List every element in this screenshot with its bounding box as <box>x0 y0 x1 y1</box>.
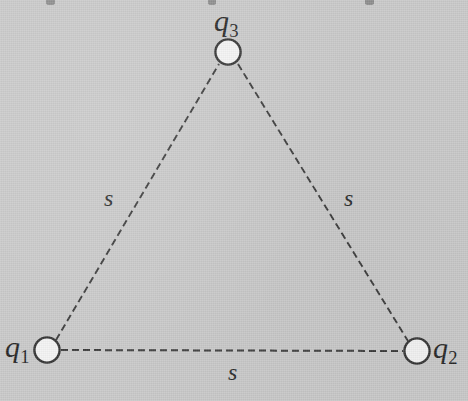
charge-node-q3 <box>215 39 240 64</box>
edge-q1-q2 <box>61 350 403 351</box>
charge-nodes <box>34 39 429 363</box>
edge-q3-q2 <box>238 64 408 341</box>
page-edge-artifact <box>365 0 374 5</box>
edge-q1-q3 <box>56 64 219 340</box>
figure-canvas: q1 q2 q3 s s s <box>0 0 468 401</box>
page-edge-artifact <box>208 0 216 5</box>
charge-node-q2 <box>404 338 429 363</box>
charge-node-q1 <box>34 337 59 362</box>
charge-label-q3: q3 <box>214 6 238 36</box>
side-label-q1-q3: s <box>104 186 113 210</box>
charge-label-q2: q2 <box>433 333 457 363</box>
charge-label-q1: q1 <box>5 332 29 362</box>
side-label-q1-q2: s <box>228 360 237 384</box>
page-edge-artifact <box>46 0 55 5</box>
side-label-q3-q2: s <box>344 186 353 210</box>
triangle-diagram-vectors <box>0 0 468 401</box>
